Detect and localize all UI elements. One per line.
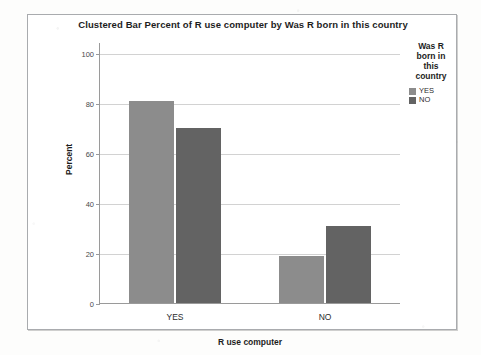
legend-title-line: born in	[406, 51, 456, 61]
x-axis-line	[99, 303, 400, 304]
legend-items: YESNO	[406, 87, 456, 104]
chart-title: Clustered Bar Percent of R use computer …	[28, 19, 458, 30]
chart-figure: Clustered Bar Percent of R use computer …	[27, 14, 457, 330]
legend: Was Rborn inthiscountry YESNO	[406, 41, 456, 105]
legend-item-yes: YES	[409, 87, 456, 95]
y-tick-mark	[96, 154, 100, 155]
x-tick-label: NO	[319, 312, 332, 322]
y-axis-line	[99, 43, 100, 304]
legend-swatch-icon	[409, 97, 416, 104]
legend-item-label: YES	[419, 87, 434, 95]
plot-area: 020406080100 YESNO	[100, 54, 400, 304]
y-tick-label: 60	[74, 150, 94, 159]
y-tick-label: 20	[74, 250, 94, 259]
legend-title: Was Rborn inthiscountry	[406, 41, 456, 81]
legend-title-line: this	[406, 61, 456, 71]
y-tick-label: 0	[74, 300, 94, 309]
x-tick-label: YES	[166, 312, 183, 322]
bar-yes-yes	[129, 101, 174, 304]
y-tick-mark	[96, 104, 100, 105]
bar-no-yes	[279, 256, 324, 304]
y-tick-mark	[96, 54, 100, 55]
legend-swatch-icon	[409, 88, 416, 95]
bar-yes-no	[176, 128, 221, 303]
y-tick-mark	[96, 304, 100, 305]
bar-no-no	[326, 226, 371, 304]
y-axis-title: Percent	[64, 144, 74, 175]
legend-title-line: Was R	[406, 41, 456, 51]
y-tick-label: 40	[74, 200, 94, 209]
x-axis-title: R use computer	[100, 337, 400, 347]
gridline	[100, 54, 400, 55]
y-tick-mark	[96, 204, 100, 205]
legend-item-label: NO	[419, 96, 430, 104]
legend-title-line: country	[406, 71, 456, 81]
y-tick-label: 80	[74, 100, 94, 109]
legend-item-no: NO	[409, 96, 456, 104]
y-tick-label: 100	[74, 50, 94, 59]
y-tick-mark	[96, 254, 100, 255]
